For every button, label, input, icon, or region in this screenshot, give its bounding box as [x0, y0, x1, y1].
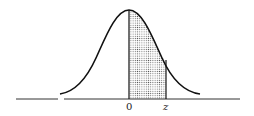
origin-label: 0 [126, 102, 132, 112]
normal-curve-diagram [0, 0, 254, 116]
z-label: z [163, 102, 168, 112]
